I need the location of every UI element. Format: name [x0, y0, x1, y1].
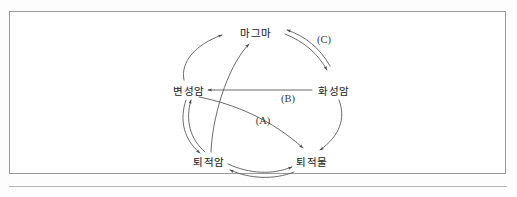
node-label-magma: 마그마 [240, 25, 271, 40]
edge-igneous-to-sediment [320, 100, 342, 150]
edge-metamorphic-to-magma [183, 35, 222, 80]
step-label-b: (B) [281, 93, 295, 104]
edge-sediment-to-sedimentary [230, 170, 294, 177]
node-label-sedimentary-rock: 퇴적암 [193, 154, 224, 169]
figure-page: 마그마 변성암 화성암 퇴적암 퇴적물 (A) (B) (C) [0, 0, 517, 197]
step-label-c: (C) [317, 34, 331, 45]
node-label-sediment: 퇴적물 [296, 154, 327, 169]
edge-sedimentary-to-sediment [228, 164, 292, 172]
edge-sedimentary-to-magma [211, 44, 249, 152]
node-label-metamorphic-rock: 변성암 [173, 83, 204, 98]
edge-metamorphic-to-sedimentary [183, 100, 200, 153]
node-label-igneous-rock: 화성암 [318, 83, 349, 98]
step-label-a: (A) [256, 115, 271, 126]
